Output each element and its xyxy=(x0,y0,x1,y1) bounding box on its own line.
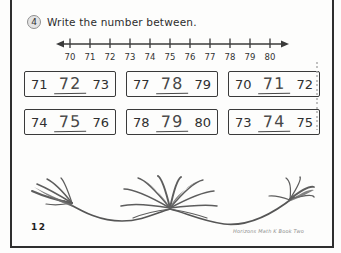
vertical-copyright-text xyxy=(316,62,318,130)
problem-box: 737475 xyxy=(228,109,320,135)
left-number: 78 xyxy=(133,115,150,130)
tick-label: 78 xyxy=(225,52,236,62)
problem-box: 777879 xyxy=(126,71,218,97)
handwritten-answer: 78 xyxy=(156,75,189,95)
right-number: 76 xyxy=(92,115,109,130)
tick-label: 72 xyxy=(105,52,116,62)
right-number: 73 xyxy=(92,77,109,92)
number-line: 7071727374757677787980 xyxy=(55,35,290,63)
book-title-footer: Horizons Math K Book Two xyxy=(233,228,304,234)
exercise-header: 4 Write the number between. xyxy=(27,15,197,29)
left-number: 74 xyxy=(31,115,48,130)
right-number: 75 xyxy=(296,115,313,130)
tick-label: 70 xyxy=(65,52,76,62)
tick-label: 77 xyxy=(205,52,216,62)
grass-flourish-decoration xyxy=(24,175,316,229)
left-number: 77 xyxy=(133,77,150,92)
problem-box: 747576 xyxy=(24,109,116,135)
tick-label: 75 xyxy=(165,52,176,62)
problem-box: 707172 xyxy=(228,71,320,97)
instruction-text: Write the number between. xyxy=(47,16,197,28)
handwritten-answer: 75 xyxy=(54,113,87,133)
problem-box: 717273 xyxy=(24,71,116,97)
problems-grid: 717273777879707172747576787980737475 xyxy=(24,71,320,135)
right-arrow-icon xyxy=(281,41,289,48)
tick-label: 80 xyxy=(265,52,276,62)
tick-label: 79 xyxy=(245,52,256,62)
exercise-number-badge: 4 xyxy=(27,15,41,29)
tick-label: 74 xyxy=(145,52,156,62)
worksheet-page: 4 Write the number between. 707172737475… xyxy=(0,0,341,253)
right-number: 80 xyxy=(194,115,211,130)
right-number: 79 xyxy=(194,77,211,92)
right-number: 72 xyxy=(296,77,313,92)
handwritten-answer: 72 xyxy=(54,75,87,95)
handwritten-answer: 79 xyxy=(156,113,189,133)
left-number: 70 xyxy=(235,77,252,92)
tick-label: 71 xyxy=(85,52,96,62)
problem-box: 787980 xyxy=(126,109,218,135)
page-number: 12 xyxy=(31,222,47,232)
tick-label: 76 xyxy=(185,52,196,62)
handwritten-answer: 71 xyxy=(258,75,291,95)
left-arrow-icon xyxy=(56,41,64,48)
tick-label: 73 xyxy=(125,52,136,62)
left-number: 73 xyxy=(235,115,252,130)
left-number: 71 xyxy=(31,77,48,92)
handwritten-answer: 74 xyxy=(258,113,291,133)
